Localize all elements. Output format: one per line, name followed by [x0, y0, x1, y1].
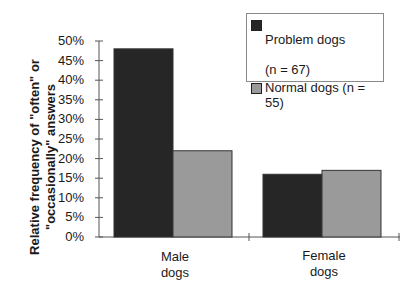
x-category-male: Male dogs	[135, 249, 215, 281]
legend-swatch-normal	[251, 83, 262, 94]
legend-item-normal-dogs: Normal dogs (n = 55)	[251, 80, 379, 110]
legend: Problem dogs (n = 67) Normal dogs (n = 5…	[246, 13, 384, 82]
bar-normal-male	[173, 151, 232, 237]
bar-problem-male	[114, 49, 173, 237]
legend-item-problem-dogs: Problem dogs (n = 67)	[251, 17, 379, 77]
legend-swatch-problem	[251, 20, 262, 31]
legend-label-line: Problem dogs	[265, 32, 345, 47]
x-category-line: dogs	[135, 265, 215, 281]
x-category-female: Female dogs	[284, 248, 364, 280]
legend-label-problem: Problem dogs (n = 67)	[265, 17, 345, 77]
bar-normal-female	[322, 170, 381, 237]
legend-label-line: (n = 67)	[265, 62, 310, 77]
bar-problem-female	[263, 174, 322, 237]
legend-label-normal: Normal dogs (n = 55)	[265, 80, 379, 110]
x-category-line: Male	[135, 249, 215, 265]
x-category-line: dogs	[284, 264, 364, 280]
x-category-line: Female	[284, 248, 364, 264]
